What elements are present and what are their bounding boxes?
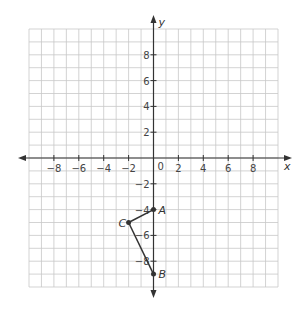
x-tick-label: 8 bbox=[250, 163, 256, 174]
y-tick-label: 6 bbox=[143, 76, 149, 87]
y-axis-down-arrow-icon bbox=[151, 290, 157, 298]
x-tick-label: −2 bbox=[121, 163, 136, 174]
x-tick-label: 6 bbox=[225, 163, 231, 174]
point-C bbox=[126, 220, 131, 225]
x-tick-label: 4 bbox=[200, 163, 206, 174]
y-tick-label: 4 bbox=[143, 101, 149, 112]
x-axis-left-arrow-icon bbox=[18, 155, 26, 161]
y-tick-label: −4 bbox=[135, 205, 150, 216]
y-axis-up-arrow-icon bbox=[151, 15, 157, 23]
point-B bbox=[151, 272, 156, 277]
y-tick-label: 8 bbox=[143, 50, 149, 61]
coordinate-plane: xy −8−6−4−224688642−2−4−6−80 ABC bbox=[0, 0, 307, 317]
y-axis-label: y bbox=[158, 16, 166, 29]
point-label-A: A bbox=[158, 204, 167, 217]
origin-label: 0 bbox=[158, 161, 164, 172]
point-label-B: B bbox=[159, 268, 167, 281]
x-tick-label: −8 bbox=[47, 163, 62, 174]
x-tick-label: −6 bbox=[71, 163, 86, 174]
x-axis-label: x bbox=[283, 160, 291, 173]
y-tick-label: −2 bbox=[135, 179, 150, 190]
x-tick-label: 2 bbox=[175, 163, 181, 174]
point-A bbox=[151, 207, 156, 212]
y-tick-label: 2 bbox=[143, 127, 149, 138]
point-label-C: C bbox=[119, 217, 127, 230]
x-tick-label: −4 bbox=[96, 163, 111, 174]
axes: xy bbox=[18, 15, 292, 298]
